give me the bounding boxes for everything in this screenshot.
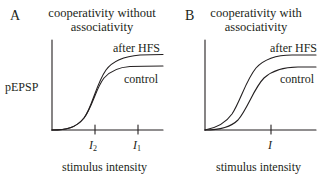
panel-a-title-line1: cooperativity without <box>42 6 162 20</box>
panel-a-letter: A <box>10 8 20 24</box>
panel-a-title: cooperativity without associativity <box>42 6 162 34</box>
panel-a-label-control: control <box>124 72 158 87</box>
panel-a-y-label: pEPSP <box>5 80 38 95</box>
panel-b-tick-label-i: I <box>268 138 272 153</box>
panel-b-x-label: stimulus intensity <box>216 160 301 175</box>
panel-a-x-label: stimulus intensity <box>62 160 147 175</box>
panel-a-tick-label-i2: I2 <box>89 138 97 153</box>
panel-b-title-line1: cooperativity with <box>206 6 306 20</box>
panel-a-label-after-hfs: after HFS <box>113 41 160 56</box>
panel-b-label-control: control <box>280 72 314 87</box>
panel-b-label-after-hfs: after HFS <box>270 41 317 56</box>
panel-b-title: cooperativity with associativity <box>206 6 306 34</box>
panel-a-title-line2: associativity <box>42 20 162 34</box>
panel-b-letter: B <box>185 8 194 24</box>
panel-a-tick-label-i1: I1 <box>133 138 141 153</box>
panel-b-curve-after-hfs <box>205 55 316 130</box>
panel-b-title-line2: associativity <box>206 20 306 34</box>
